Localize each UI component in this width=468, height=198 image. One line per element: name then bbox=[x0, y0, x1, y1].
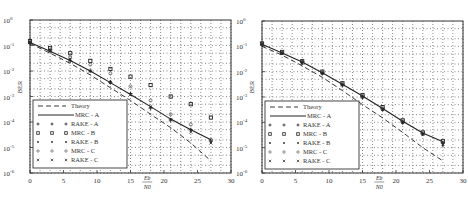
legend-dot-icon bbox=[65, 141, 67, 143]
xtick-label: 0 bbox=[260, 177, 264, 185]
legend-label: Theory bbox=[303, 103, 323, 110]
legend-dot-icon bbox=[51, 141, 53, 143]
legend: TheoryMRC - ARAKE - AMRC - BRAKE - BMRC … bbox=[265, 101, 359, 169]
xtick-label: 0 bbox=[28, 177, 32, 185]
legend-label: MRC - B bbox=[303, 130, 328, 137]
legend-dot-icon bbox=[269, 142, 271, 144]
legend-label: RAKE - B bbox=[303, 139, 331, 146]
legend-label: MRC - A bbox=[307, 112, 332, 119]
ytick-label: 10-3 bbox=[3, 93, 15, 102]
ytick-label: 10-2 bbox=[236, 68, 248, 77]
ytick-label: 10-5 bbox=[236, 144, 248, 153]
legend-label: RAKE - C bbox=[303, 157, 330, 164]
ytick-label: 10-4 bbox=[3, 118, 15, 127]
ytick-label: 10-6 bbox=[3, 169, 15, 178]
ytick-label: 10-1 bbox=[236, 42, 248, 51]
legend-label: RAKE - C bbox=[71, 156, 98, 163]
xtick-label: 5 bbox=[294, 177, 298, 185]
xlabel-denominator: N0 bbox=[375, 184, 383, 190]
legend-label: MRC - B bbox=[71, 129, 96, 136]
dot-marker bbox=[190, 129, 192, 131]
xtick-label: 15 bbox=[127, 177, 135, 185]
legend-dot-icon bbox=[37, 141, 39, 143]
ylabel: BER bbox=[248, 80, 255, 93]
xlabel-numerator: Eb bbox=[143, 175, 151, 181]
chart-right: 10010-110-210-310-410-510-6051015202530B… bbox=[236, 17, 467, 190]
ytick-label: 10-3 bbox=[236, 93, 248, 102]
xtick-label: 20 bbox=[393, 177, 401, 185]
xtick-label: 30 bbox=[228, 177, 236, 185]
legend-label: MRC - C bbox=[71, 147, 95, 154]
ber-charts: 10010-110-210-310-410-510-6051015202530B… bbox=[0, 0, 468, 198]
ytick-label: 100 bbox=[3, 16, 13, 25]
ytick-label: 10-5 bbox=[3, 144, 15, 153]
xtick-label: 20 bbox=[161, 177, 169, 185]
ylabel: BER bbox=[16, 80, 23, 93]
xtick-label: 10 bbox=[326, 177, 334, 185]
legend-label: MRC - A bbox=[75, 111, 100, 118]
xtick-label: 5 bbox=[62, 177, 66, 185]
legend-label: MRC - C bbox=[303, 148, 327, 155]
legend-label: RAKE - B bbox=[71, 138, 99, 145]
xlabel-denominator: N0 bbox=[143, 184, 151, 190]
xtick-label: 15 bbox=[359, 177, 367, 185]
figure: 10010-110-210-310-410-510-6051015202530B… bbox=[0, 0, 468, 198]
ytick-label: 100 bbox=[236, 17, 246, 26]
ytick-label: 10-6 bbox=[236, 169, 248, 178]
legend-label: RAKE - A bbox=[303, 121, 331, 128]
chart-left: 10010-110-210-310-410-510-6051015202530B… bbox=[3, 16, 235, 190]
legend-label: RAKE - A bbox=[71, 120, 99, 127]
ytick-label: 10-4 bbox=[236, 118, 248, 127]
legend-label: Theory bbox=[71, 102, 91, 109]
xtick-label: 25 bbox=[194, 177, 202, 185]
xlabel-numerator: Eb bbox=[375, 175, 383, 181]
legend: TheoryMRC - ARAKE - AMRC - BRAKE - BMRC … bbox=[33, 100, 127, 168]
legend-dot-icon bbox=[297, 142, 299, 144]
xtick-label: 30 bbox=[460, 177, 468, 185]
ytick-label: 10-2 bbox=[3, 67, 15, 76]
xtick-label: 10 bbox=[94, 177, 102, 185]
legend-dot-icon bbox=[283, 142, 285, 144]
ytick-label: 10-1 bbox=[3, 42, 15, 51]
xtick-label: 25 bbox=[426, 177, 434, 185]
